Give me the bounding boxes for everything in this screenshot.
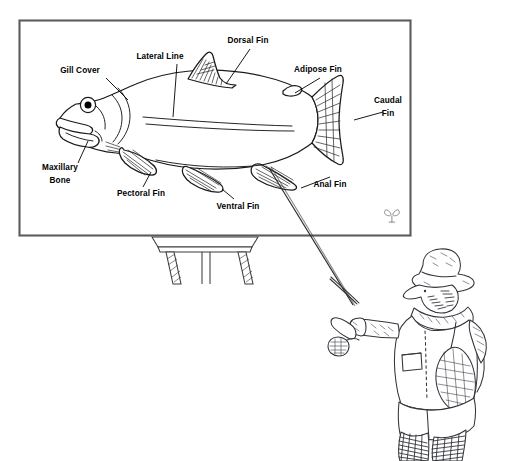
label-anal-fin: Anal Fin [313,180,346,189]
label-ventral-fin: Ventral Fin [217,202,260,211]
fish-anatomy-illustration: Gill Cover Lateral Line Dorsal Fin Adipo… [0,0,525,461]
label-gill-cover: Gill Cover [60,66,100,75]
label-adipose-fin: Adipose Fin [294,65,342,74]
label-lateral-line: Lateral Line [136,52,184,61]
fisherman-eye [424,290,426,292]
label-dorsal-fin: Dorsal Fin [227,36,268,45]
label-caudal-fin-line1: Caudal [374,96,402,105]
label-pectoral-fin: Pectoral Fin [117,189,165,198]
illustration-root: Gill Cover Lateral Line Dorsal Fin Adipo… [0,0,525,461]
easel-tray-lip [158,247,252,252]
fish-eye-pupil [85,102,92,109]
label-maxillary-bone-line2: Bone [50,176,71,185]
easel-tray [152,237,258,247]
label-maxillary-bone-line1: Maxillary [42,163,78,172]
label-caudal-fin-line2: Fin [382,109,395,118]
